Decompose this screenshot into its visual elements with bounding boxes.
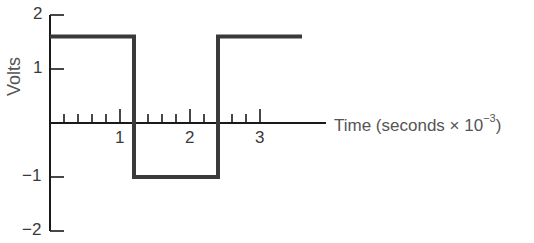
x-axis-label-main: Time (seconds × 10 (334, 116, 483, 135)
x-axis-label-close: ) (496, 116, 502, 135)
square-wave-line (50, 37, 302, 177)
y-tick-label: 1 (33, 59, 42, 76)
x-tick-label: 2 (185, 129, 194, 146)
x-axis-label-exponent: −3 (483, 112, 496, 124)
y-tick-label: −2 (22, 221, 41, 238)
y-tick-label: −1 (22, 167, 41, 184)
x-axis-label: Time (seconds × 10−3) (334, 114, 501, 136)
y-tick-label: 2 (33, 5, 42, 22)
x-tick-label: 1 (115, 129, 124, 146)
x-tick-label: 3 (255, 129, 264, 146)
y-axis-label: Volts (4, 57, 25, 96)
